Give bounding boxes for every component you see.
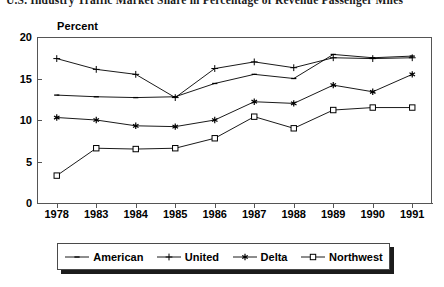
y-axis-tick-mark bbox=[37, 203, 42, 204]
x-axis-tick-mark bbox=[333, 203, 334, 208]
legend-item-northwest[interactable]: Northwest bbox=[300, 251, 383, 263]
open-square-marker bbox=[310, 254, 315, 259]
x-axis-tick-mark bbox=[215, 203, 216, 208]
y-axis-tick-label: 20 bbox=[8, 31, 32, 43]
x-axis-tick-mark bbox=[96, 203, 97, 208]
legend-label: Delta bbox=[261, 251, 288, 263]
legend-item-united[interactable]: United bbox=[156, 251, 219, 263]
x-axis-tick-mark bbox=[254, 203, 255, 208]
y-axis-tick-label: 5 bbox=[8, 156, 32, 168]
chart-legend: AmericanUnitedDeltaNorthwest bbox=[57, 243, 390, 270]
dash-marker bbox=[64, 251, 90, 263]
open-square-marker bbox=[300, 251, 326, 263]
y-axis-tick-label: 10 bbox=[8, 114, 32, 126]
y-axis-tick-label: 15 bbox=[8, 73, 32, 85]
x-axis-tick-mark bbox=[373, 203, 374, 208]
legend-item-delta[interactable]: Delta bbox=[232, 251, 288, 263]
x-axis-tick-mark bbox=[175, 203, 176, 208]
legend-item-american[interactable]: American bbox=[64, 251, 143, 263]
legend-label: American bbox=[93, 251, 143, 263]
plot-frame bbox=[37, 37, 432, 203]
page-title: U.S. Industry Traffic Market Share in Pe… bbox=[6, 0, 442, 6]
plus-marker bbox=[156, 251, 182, 263]
x-axis-tick-mark bbox=[136, 203, 137, 208]
y-axis-tick-label: 0 bbox=[8, 197, 32, 209]
x-axis-tick-label: 1991 bbox=[389, 208, 435, 220]
x-axis-tick-mark bbox=[412, 203, 413, 208]
plot-area bbox=[37, 37, 432, 203]
x-axis-tick-mark bbox=[57, 203, 58, 208]
legend-label: Northwest bbox=[329, 251, 383, 263]
x-axis-tick-mark bbox=[294, 203, 295, 208]
legend-label: United bbox=[185, 251, 219, 263]
y-axis-title: Percent bbox=[57, 20, 98, 32]
star-marker bbox=[232, 251, 258, 263]
plus-marker bbox=[165, 253, 172, 260]
